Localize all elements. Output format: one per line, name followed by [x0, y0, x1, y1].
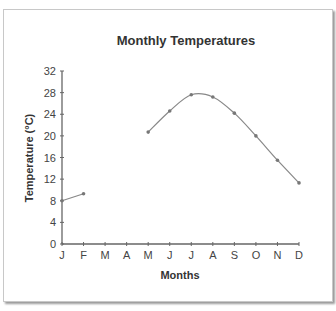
- data-point: [60, 199, 64, 203]
- y-tick-label: 32: [44, 65, 56, 77]
- x-tick-label: M: [101, 249, 110, 261]
- series-line: [148, 94, 299, 183]
- y-tick-label: 8: [50, 195, 56, 207]
- x-tick-label: M: [144, 249, 153, 261]
- y-tick-label: 28: [44, 87, 56, 99]
- data-point: [254, 134, 258, 138]
- data-point: [189, 93, 193, 97]
- x-axis-label: Months: [160, 269, 199, 281]
- data-point: [168, 109, 172, 113]
- line-chart: Monthly Temperatures Temperature (°C) Mo…: [0, 0, 336, 311]
- data-point: [146, 130, 150, 134]
- axes: 048121620242832JFMAMJJASOND: [44, 65, 303, 261]
- x-tick-label: D: [295, 249, 303, 261]
- data-point: [82, 192, 86, 196]
- y-tick-label: 12: [44, 173, 56, 185]
- y-tick-label: 24: [44, 108, 56, 120]
- x-tick-label: J: [189, 249, 195, 261]
- x-tick-label: F: [80, 249, 87, 261]
- x-tick-label: J: [59, 249, 65, 261]
- y-tick-label: 0: [50, 238, 56, 250]
- x-tick-label: S: [231, 249, 238, 261]
- x-tick-label: N: [273, 249, 281, 261]
- data-point: [211, 95, 215, 99]
- data-point: [297, 181, 301, 185]
- x-tick-label: O: [252, 249, 261, 261]
- y-axis-label: Temperature (°C): [23, 113, 35, 202]
- y-tick-label: 4: [50, 216, 56, 228]
- series-group: [60, 93, 301, 203]
- y-tick-label: 16: [44, 152, 56, 164]
- x-tick-label: J: [167, 249, 173, 261]
- x-tick-label: A: [209, 249, 217, 261]
- chart-title: Monthly Temperatures: [117, 33, 255, 48]
- data-point: [233, 111, 237, 115]
- series-line: [62, 194, 84, 201]
- data-point: [276, 158, 280, 162]
- x-tick-label: A: [123, 249, 131, 261]
- y-tick-label: 20: [44, 130, 56, 142]
